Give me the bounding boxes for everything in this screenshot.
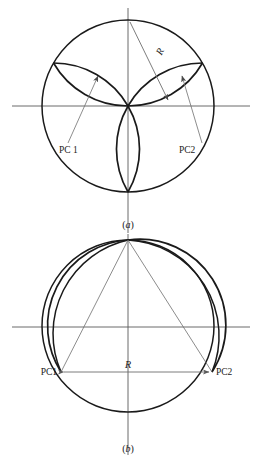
panel-b-radius-label: R: [124, 359, 131, 370]
panel-a-petal-lower-arc-left: [128, 106, 140, 192]
panel-b-chord-apex-pc2: [128, 240, 212, 372]
panel-b-pc2-label: PC2: [216, 367, 233, 377]
figure-root: R PC 1 PC2 (a): [0, 0, 265, 467]
panel-a-petal-upper-left-arc-inner: [54, 63, 129, 106]
geometry-figure-canvas: R PC 1 PC2 (a): [0, 0, 265, 467]
panel-a-radius-arrow: [130, 22, 168, 100]
panel-a-petal-upper-left-arc-outer: [54, 63, 129, 106]
panel-b-inner-arc-left: [53, 240, 128, 372]
panel-b-pc1-label: PC1: [41, 367, 58, 377]
panel-a-pc2-leader: [182, 76, 202, 143]
panel-b-caption-close: ): [131, 443, 134, 455]
panel-a-radius-label: R: [153, 46, 166, 57]
panel-a-pc2-label: PC2: [179, 145, 196, 155]
panel-a-caption-close: ): [131, 219, 134, 231]
panel-a-caption: (a): [122, 219, 134, 231]
panel-b-chord-apex-pc1: [61, 240, 128, 372]
panel-b-inner-arc-right: [128, 240, 219, 372]
panel-a-petal-upper-right-arc-inner: [128, 63, 203, 106]
panel-a-pc1-label: PC 1: [59, 145, 78, 155]
panel-b: R PC1 PC2 (b): [12, 234, 250, 455]
panel-a: R PC 1 PC2 (a): [12, 8, 250, 233]
panel-a-petal-lower-arc-right: [116, 106, 128, 192]
panel-a-petal-upper-right-arc-outer: [128, 63, 203, 106]
panel-b-caption: (b): [122, 443, 134, 455]
